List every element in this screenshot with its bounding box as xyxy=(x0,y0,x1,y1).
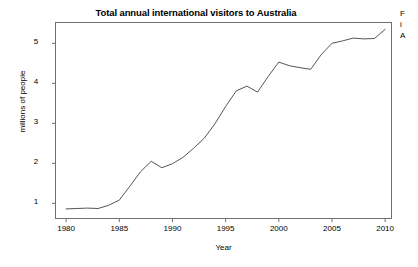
y-tick-label: 4 xyxy=(29,77,43,86)
y-axis-ticks xyxy=(52,43,56,203)
x-tick-label: 1985 xyxy=(102,224,136,233)
x-tick-label: 1980 xyxy=(49,224,83,233)
side-note-line-2: i xyxy=(400,19,418,30)
y-tick-label: 2 xyxy=(29,157,43,166)
y-tick-label: 1 xyxy=(29,197,43,206)
side-note-line-1: F xyxy=(400,8,418,19)
x-tick-label: 2010 xyxy=(368,224,402,233)
y-tick-label: 3 xyxy=(29,117,43,126)
y-tick-label: 5 xyxy=(29,37,43,46)
data-series-line xyxy=(66,29,385,209)
x-axis-ticks xyxy=(66,219,385,223)
side-note-line-3: A xyxy=(400,30,418,41)
plot-frame xyxy=(56,23,392,219)
x-tick-label: 1990 xyxy=(155,224,189,233)
figure-container: Total annual international visitors to A… xyxy=(0,0,418,267)
side-note-text: F i A xyxy=(400,8,418,41)
x-tick-label: 2000 xyxy=(262,224,296,233)
x-tick-label: 1995 xyxy=(209,224,243,233)
x-tick-label: 2005 xyxy=(315,224,349,233)
